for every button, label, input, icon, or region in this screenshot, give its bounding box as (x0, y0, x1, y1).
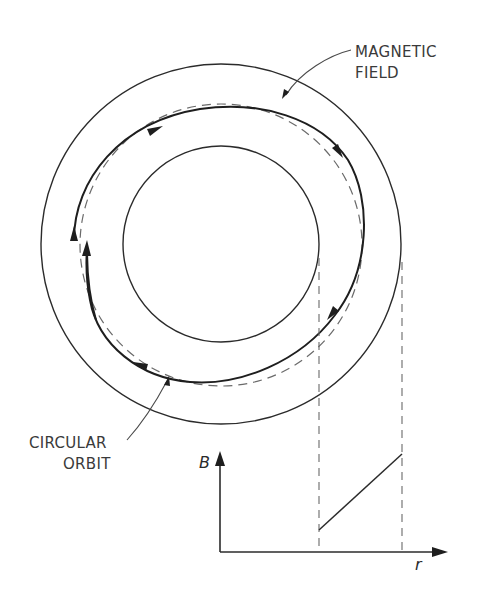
betatron-diagram: MAGNETIC FIELD CIRCULAR ORBIT B r (0, 0, 477, 591)
magnetic-field-label-line2: FIELD (355, 64, 399, 82)
r-axis-label: r (415, 555, 423, 574)
circular-orbit-label: CIRCULAR (29, 434, 107, 452)
b-axis-label: B (199, 453, 210, 472)
orbit-arrow-icon (133, 362, 148, 371)
magnetic-field-pointer (286, 50, 351, 95)
pointer-arrow-icon (282, 89, 289, 99)
b-axis-arrow-icon (215, 451, 225, 466)
b-versus-r-curve (319, 454, 402, 530)
orbit-arrow-icon (70, 226, 78, 241)
magnetic-field-label: MAGNETIC (355, 43, 437, 61)
inner-field-boundary (123, 146, 319, 342)
orbit-arrow-icon (82, 240, 91, 256)
circular-orbit-label-line2: ORBIT (63, 455, 111, 473)
r-axis-arrow-icon (432, 547, 448, 557)
orbit-arrow-icon (147, 126, 163, 136)
circular-orbit-pointer (127, 381, 167, 440)
outer-field-boundary (41, 64, 401, 424)
